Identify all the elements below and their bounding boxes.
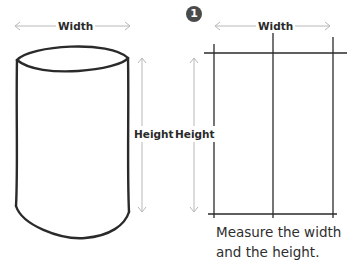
caption-line-2: and the height. bbox=[216, 242, 341, 262]
instruction-caption: Measure the width and the height. bbox=[216, 222, 341, 262]
caption-line-1: Measure the width bbox=[216, 222, 341, 242]
right-width-label: Width bbox=[256, 20, 295, 32]
step-number-badge: 1 bbox=[186, 6, 202, 22]
left-width-label: Width bbox=[56, 20, 95, 32]
grid-lines bbox=[204, 33, 347, 218]
right-height-label: Height bbox=[174, 126, 216, 142]
left-height-label: Height bbox=[133, 126, 175, 142]
cylinder-drawing bbox=[16, 46, 129, 238]
